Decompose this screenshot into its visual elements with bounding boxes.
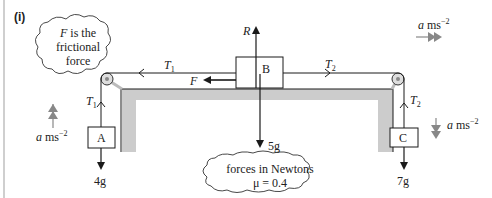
cloud-friction-text: F is the frictional force [48,26,108,68]
accel-arrow-up [48,104,58,128]
accel-label-c: a ms−2 [447,118,479,131]
block-a-label: A [97,131,106,146]
accel-arrow-right [416,32,442,42]
tension-t1-vert-label: T1 [86,95,97,110]
weight-c-label: 7g [397,175,409,187]
tension-t1-top-label: T1 [164,59,175,74]
table [120,89,393,152]
tension-t2-top-label: T2 [325,58,336,73]
accel-arrow-down [431,118,441,139]
left-pulley [101,73,122,89]
weight-a-label: 4g [94,175,106,187]
tension-t2-vert-label: T2 [410,94,421,109]
cloud-info-text: forces in Newtons μ = 0.4 [220,162,320,190]
force-r-label: R [243,25,250,37]
block-c-label: C [399,131,407,146]
accel-label-a: a ms−2 [36,130,68,143]
block-b-label: B [262,62,270,77]
accel-label-b: a ms−2 [418,18,450,31]
weight-b-label: 5g [268,140,280,152]
force-f-label: F [190,75,197,87]
